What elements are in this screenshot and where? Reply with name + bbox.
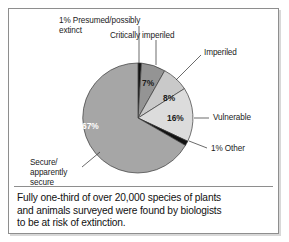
slice-label-vulnerable: 16% <box>167 113 184 123</box>
label-critically-imperiled: Critically imperiled <box>110 31 174 41</box>
leader-line-imperiled <box>176 55 201 80</box>
label-imperiled: Imperiled <box>204 48 237 58</box>
figure-page: 7% 8% 16% 67% 1% Presumed/possibly extin… <box>0 0 289 242</box>
label-other: 1% Other <box>211 144 245 154</box>
figure-caption: Fully one-third of over 20,000 species o… <box>17 192 271 230</box>
slice-label-secure: 67% <box>82 121 99 131</box>
label-vulnerable: Vulnerable <box>213 113 251 123</box>
leader-line-other <box>189 141 207 148</box>
slice-label-imperiled: 8% <box>163 93 175 103</box>
label-secure-line1: Secure/ <box>30 158 58 168</box>
leader-line-secure <box>82 152 100 167</box>
caption-line-2: and animals surveyed were found by biolo… <box>17 205 271 218</box>
caption-divider <box>14 186 273 187</box>
caption-line-3: to be at risk of extinction. <box>17 217 271 230</box>
label-presumed-extinct-line2: extinct <box>59 26 82 36</box>
slice-label-critically-imperiled: 7% <box>142 78 154 88</box>
pie-chart: 7% 8% 16% 67% 1% Presumed/possibly extin… <box>8 8 279 234</box>
label-secure-line2: apparently <box>30 168 67 178</box>
label-presumed-extinct-line1: 1% Presumed/possibly <box>59 16 140 26</box>
caption-line-1: Fully one-third of over 20,000 species o… <box>17 192 271 205</box>
